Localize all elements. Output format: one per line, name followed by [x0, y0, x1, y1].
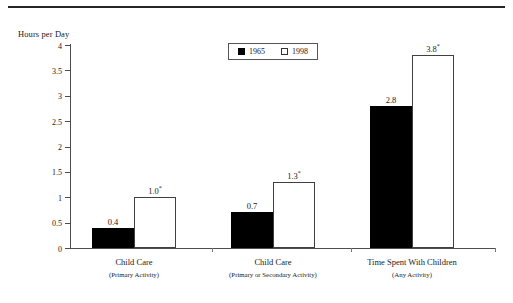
x-axis-line — [70, 248, 496, 249]
category-label-main: Child Care — [115, 257, 152, 267]
top-divider-rule — [8, 6, 505, 8]
plot-area: 0.41.0*0.71.3*2.83.8* — [70, 45, 496, 248]
bar-value-footnote-mark: * — [159, 185, 162, 191]
y-axis-title: Hours per Day — [18, 29, 69, 39]
bar-1965-group3: 2.8 — [370, 106, 412, 248]
y-axis-tick: 0 — [65, 248, 70, 249]
y-axis-tick-label: 0 — [58, 244, 62, 253]
chart-legend: 1965 1998 — [228, 43, 318, 60]
x-axis-tick — [351, 248, 352, 252]
category-label-sub: (Primary Activity) — [59, 270, 209, 280]
legend-entry-1965: 1965 — [238, 47, 265, 56]
bar-value-footnote-mark: * — [437, 43, 440, 49]
y-axis-tick-label: 2.5 — [52, 117, 62, 126]
category-label-group1: Child Care(Primary Activity) — [59, 256, 209, 280]
legend-swatch-filled-square-icon — [238, 48, 245, 55]
legend-swatch-hollow-square-icon — [281, 48, 288, 55]
category-label-main: Time Spent With Children — [367, 257, 457, 267]
bar-value-label: 1.3* — [287, 171, 301, 181]
category-label-group3: Time Spent With Children(Any Activity) — [337, 256, 487, 280]
bar-1965-group2: 0.7 — [231, 212, 273, 248]
legend-label-1998: 1998 — [292, 47, 308, 56]
bar-1998-group1: 1.0* — [134, 197, 176, 248]
bar-value-label: 3.8* — [426, 44, 440, 54]
y-axis-tick-label: 1.5 — [52, 168, 62, 177]
y-axis-tick-label: 3 — [58, 92, 62, 101]
bar-value-label: 0.7 — [247, 201, 258, 211]
bar-value-footnote-mark: * — [298, 170, 301, 176]
y-axis-tick-label: 0.5 — [52, 219, 62, 228]
bar-value-label: 2.8 — [386, 95, 397, 105]
category-label-main: Child Care — [254, 257, 291, 267]
legend-entry-1998: 1998 — [281, 47, 308, 56]
bar-1998-group2: 1.3* — [273, 182, 315, 248]
y-axis-tick-label: 2 — [58, 143, 62, 152]
category-label-sub: (Any Activity) — [337, 270, 487, 280]
x-axis-tick — [212, 248, 213, 252]
bar-1998-group3: 3.8* — [412, 55, 454, 248]
bar-value-label: 0.4 — [108, 217, 119, 227]
x-axis-tick — [495, 248, 496, 252]
legend-label-1965: 1965 — [249, 47, 265, 56]
y-axis-tick-label: 1 — [58, 193, 62, 202]
category-label-group2: Child Care(Primary or Secondary Activity… — [198, 256, 348, 280]
y-axis-tick-label: 3.5 — [52, 66, 62, 75]
bar-value-label: 1.0* — [148, 186, 162, 196]
bar-chart-figure: Hours per Day 00.511.522.533.54 0.41.0*0… — [0, 0, 513, 303]
bar-1965-group1: 0.4 — [92, 228, 134, 248]
category-label-sub: (Primary or Secondary Activity) — [198, 270, 348, 280]
y-axis-tick-label: 4 — [58, 41, 62, 50]
